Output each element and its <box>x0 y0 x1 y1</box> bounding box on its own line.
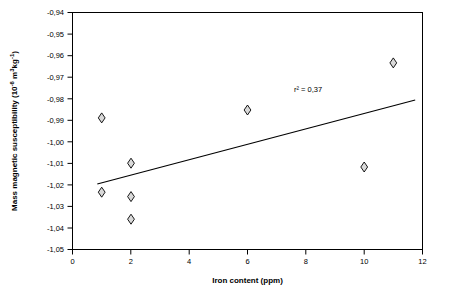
data-point <box>244 105 251 115</box>
x-tick-label: 4 <box>187 257 191 266</box>
y-axis-title-main: Mass magnetic susceptibility (10 <box>10 86 19 211</box>
y-tick-label: -1,03 <box>47 202 64 211</box>
chart-container: -1,05 -1,04 -1,03 -1,02 -1,01 -1,00 -0,9… <box>0 0 470 298</box>
x-axis-ticks <box>73 250 423 255</box>
data-point <box>128 158 135 168</box>
y-tick-label: -0,96 <box>47 51 64 60</box>
y-axis-title-tail: kg <box>10 59 19 68</box>
y-tick-label: -1,04 <box>47 224 64 233</box>
x-tick-label: 0 <box>70 257 74 266</box>
svg-text:Mass magnetic susceptibility (: Mass magnetic susceptibility (10-6 m3kg-… <box>9 51 19 211</box>
data-points <box>98 58 396 224</box>
x-tick-label: 12 <box>418 257 426 266</box>
y-tick-label: -0,94 <box>47 8 64 17</box>
y-axis-ticks <box>68 13 73 250</box>
x-tick-label: 2 <box>129 257 133 266</box>
data-point <box>98 187 105 197</box>
y-tick-label: -1,00 <box>47 138 64 147</box>
y-tick-label: -0,97 <box>47 73 64 82</box>
y-tick-label: -0,99 <box>47 116 64 125</box>
y-tick-label: -1,02 <box>47 181 64 190</box>
r-squared-annotation: r² = 0,37 <box>294 85 322 94</box>
x-axis-title: Iron content (ppm) <box>212 276 283 285</box>
data-point <box>98 113 105 123</box>
x-tick-label: 8 <box>304 257 308 266</box>
y-axis-title: Mass magnetic susceptibility (10-6 m3kg-… <box>9 51 19 211</box>
x-tick-label: 10 <box>360 257 368 266</box>
y-tick-labels: -1,05 -1,04 -1,03 -1,02 -1,01 -1,00 -0,9… <box>47 8 64 254</box>
data-point <box>128 192 135 202</box>
trend-line <box>97 100 415 184</box>
plot-frame <box>73 13 423 250</box>
y-tick-label: -1,01 <box>47 159 64 168</box>
data-point <box>390 58 397 68</box>
y-tick-label: -0,95 <box>47 30 64 39</box>
y-tick-label: -0,98 <box>47 95 64 104</box>
scatter-plot: -1,05 -1,04 -1,03 -1,02 -1,01 -1,00 -0,9… <box>0 0 470 298</box>
x-tick-labels: 0 2 4 6 8 10 12 <box>70 257 426 266</box>
y-axis-title-mid: m <box>10 72 19 81</box>
x-tick-label: 6 <box>245 257 249 266</box>
data-point <box>361 162 368 172</box>
data-point <box>128 214 135 224</box>
y-axis-title-close: ) <box>10 51 19 54</box>
y-tick-label: -1,05 <box>47 245 64 254</box>
